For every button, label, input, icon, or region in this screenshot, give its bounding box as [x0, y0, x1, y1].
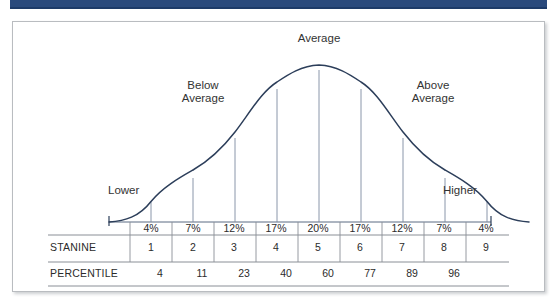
curve-label-below-average-line2: Average [158, 92, 248, 105]
chart-card: Average Below Average Above Average Lowe… [12, 21, 545, 292]
top-accent-bar-shadow [10, 7, 547, 9]
percent-label-2: 7% [173, 222, 213, 234]
row-label-stanine: STANINE [50, 241, 96, 253]
percent-label-8: 7% [424, 222, 464, 234]
percent-label-7: 12% [382, 222, 422, 234]
axis-label-higher: Higher [443, 184, 477, 197]
percentile-value-7: 89 [397, 267, 427, 279]
percent-label-6: 17% [340, 222, 380, 234]
percentile-value-2: 11 [187, 267, 217, 279]
curve-label-average-line1: Average [259, 32, 379, 45]
percent-label-3: 12% [214, 222, 254, 234]
percentile-value-8: 96 [439, 267, 469, 279]
stanine-value-9: 9 [466, 241, 506, 253]
stanine-value-5: 5 [298, 241, 338, 253]
stanine-value-3: 3 [214, 241, 254, 253]
axis-label-lower: Lower [108, 184, 139, 197]
figure-page: Average Below Average Above Average Lowe… [0, 0, 557, 305]
curve-label-above-average-line2: Average [388, 92, 478, 105]
percentile-value-3: 23 [229, 267, 259, 279]
percentile-value-6: 77 [355, 267, 385, 279]
percentile-value-5: 60 [313, 267, 343, 279]
percent-label-9: 4% [466, 222, 506, 234]
stanine-value-7: 7 [382, 241, 422, 253]
percent-label-1: 4% [131, 222, 171, 234]
percent-label-5: 20% [298, 222, 338, 234]
bell-curve-figure: Average Below Average Above Average Lowe… [13, 22, 544, 291]
percent-label-4: 17% [256, 222, 296, 234]
curve-label-above-average: Above Average [388, 79, 478, 106]
stanine-value-8: 8 [424, 241, 464, 253]
stanine-value-6: 6 [340, 241, 380, 253]
curve-label-average: Average [259, 32, 379, 45]
stanine-value-2: 2 [173, 241, 213, 253]
stanine-value-1: 1 [131, 241, 171, 253]
percentile-value-1: 4 [145, 267, 175, 279]
curve-label-above-average-line1: Above [388, 79, 478, 92]
curve-label-below-average-line1: Below [158, 79, 248, 92]
stanine-value-4: 4 [256, 241, 296, 253]
row-label-percentile: PERCENTILE [50, 267, 118, 279]
curve-label-below-average: Below Average [158, 79, 248, 106]
percentile-value-4: 40 [271, 267, 301, 279]
